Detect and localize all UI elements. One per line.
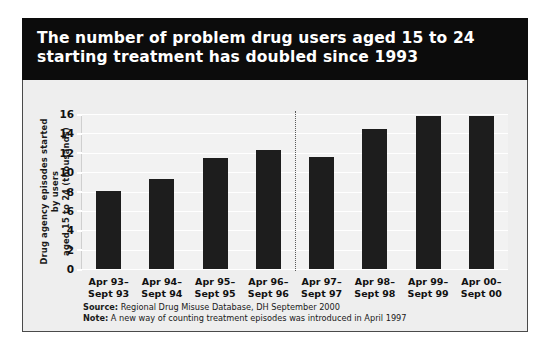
footnote-source-text: Regional Drug Misuse Database, DH Septem… xyxy=(118,302,340,312)
y-axis-title-line-1: Drug agency episodes started by users xyxy=(39,118,60,264)
y-axis-tick xyxy=(77,210,82,212)
footnote-note-key: Note: xyxy=(83,313,108,323)
bar xyxy=(362,129,387,269)
bar xyxy=(416,116,441,269)
x-axis-tick-label: Apr 93–Sept 93 xyxy=(88,276,129,299)
x-axis-tick-label: Apr 96–Sept 96 xyxy=(248,276,289,299)
y-axis-tick-label: 14 xyxy=(59,127,74,139)
y-axis-tick xyxy=(77,152,82,154)
y-axis-tick xyxy=(77,114,82,116)
footnote-note-text: A new way of counting treatment episodes… xyxy=(108,313,406,323)
y-axis-tick-label: 16 xyxy=(59,108,74,120)
x-axis-tick-label: Apr 95–Sept 95 xyxy=(195,276,236,299)
bar xyxy=(96,191,121,269)
y-axis-tick xyxy=(77,249,82,251)
y-axis-tick xyxy=(77,269,82,271)
y-axis-tick-label: 2 xyxy=(67,244,74,256)
y-axis-tick-label: 8 xyxy=(67,186,74,198)
y-axis-tick xyxy=(77,191,82,193)
x-axis-tick-label: Apr 94–Sept 94 xyxy=(141,276,182,299)
y-axis-tick-label: 4 xyxy=(67,224,74,236)
bar xyxy=(203,158,228,269)
x-axis-tick-label: Apr 00–Sept 00 xyxy=(461,276,502,299)
y-axis-tick xyxy=(77,172,82,174)
plot-area: 0246810121416 Apr 93–Sept 93Apr 94–Sept … xyxy=(82,114,508,269)
bar xyxy=(149,179,174,269)
y-axis-tick xyxy=(77,230,82,232)
chart-panel: Drug agency episodes started by users ag… xyxy=(22,80,528,332)
footnotes: Source: Regional Drug Misuse Database, D… xyxy=(83,302,407,324)
chart-figure: The number of problem drug users aged 15… xyxy=(22,18,528,332)
bar xyxy=(256,150,281,269)
x-axis-tick-label: Apr 99–Sept 99 xyxy=(408,276,449,299)
title-band: The number of problem drug users aged 15… xyxy=(22,18,528,80)
y-axis-tick-label: 6 xyxy=(67,205,74,217)
footnote-note: Note: A new way of counting treatment ep… xyxy=(83,313,407,324)
bar xyxy=(469,116,494,269)
x-axis-tick-label: Apr 98–Sept 98 xyxy=(354,276,395,299)
chart-title: The number of problem drug users aged 15… xyxy=(37,29,515,67)
counting-method-divider xyxy=(295,111,296,271)
y-axis-tick-label: 12 xyxy=(59,147,74,159)
footnote-source: Source: Regional Drug Misuse Database, D… xyxy=(83,302,407,313)
bar xyxy=(309,157,334,269)
y-axis-tick xyxy=(77,133,82,135)
x-axis-tick-label: Apr 97–Sept 97 xyxy=(301,276,342,299)
y-axis-tick-label: 0 xyxy=(67,263,74,275)
y-axis-tick-label: 10 xyxy=(59,166,74,178)
footnote-source-key: Source: xyxy=(83,302,118,312)
